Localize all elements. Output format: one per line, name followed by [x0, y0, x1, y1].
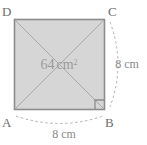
area-unit-exponent: 2	[74, 58, 78, 67]
vertex-label-a: A	[2, 115, 12, 130]
dimension-label-bottom: 8 cm	[52, 127, 76, 141]
dimension-arc-bottom	[16, 116, 103, 124]
area-label: 64cm2	[40, 57, 77, 72]
dimension-label-right: 8 cm	[115, 57, 139, 71]
area-value: 64	[40, 57, 54, 72]
geometry-canvas: D C A B 64cm2 8 cm 8 cm	[0, 0, 147, 145]
vertex-label-d: D	[2, 4, 11, 19]
vertex-label-c: C	[108, 4, 117, 19]
vertex-label-b: B	[105, 115, 114, 130]
square-geometry-figure: D C A B 64cm2 8 cm 8 cm	[0, 0, 147, 145]
area-unit: cm	[56, 57, 73, 72]
